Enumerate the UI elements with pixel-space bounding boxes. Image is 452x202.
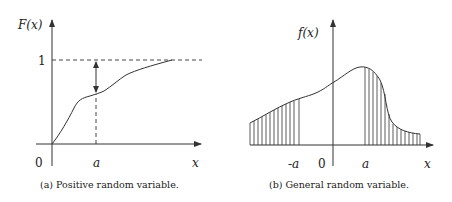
figure: F(x) 1 0 a x (a) Positive random variabl… [0,0,452,202]
origin-label: 0 [318,157,326,171]
x-axis-label: x [424,157,431,171]
y-axis-label: f(x) [297,26,319,40]
x-axis-label: x [192,156,199,170]
tick-neg-a-label: -a [288,157,299,171]
panel-a-cdf: F(x) 1 0 a x (a) Positive random variabl… [17,18,202,190]
pdf-curve [250,67,420,134]
origin-label: 0 [35,156,43,170]
tick-a-label: a [93,156,100,170]
tick-a-label: a [362,157,369,171]
cdf-curve [52,60,172,144]
caption-b: (b) General random variable. [269,179,409,190]
level-one-label: 1 [38,54,46,68]
y-axis-label: F(x) [17,18,43,32]
arrow-head-up [93,61,99,68]
panel-b-pdf: f(x) -a 0 a x (b) General random variabl… [250,20,433,190]
arrow-head-down [93,86,99,93]
caption-a: (a) Positive random variable. [40,179,179,190]
left-tail-hatching [250,99,299,145]
